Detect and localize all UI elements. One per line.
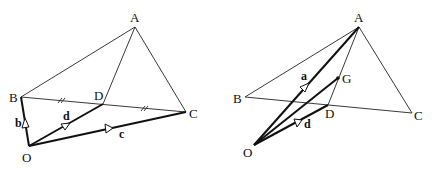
segment-bc: [21, 97, 186, 112]
label-b: B: [9, 90, 18, 105]
segment-ac: [359, 27, 412, 113]
arrow-b-icon: [22, 118, 29, 128]
segment-ad: [328, 27, 359, 105]
arrow-c-icon: [105, 124, 113, 133]
label-g: G: [342, 71, 351, 86]
label-o: O: [243, 145, 252, 160]
vector-label-c: c: [119, 127, 125, 141]
vector-label-a: a: [301, 69, 307, 83]
label-a: A: [130, 10, 140, 25]
left-figure: A B D C O b d c: [9, 10, 198, 165]
label-d: D: [325, 106, 334, 121]
arrow-d-icon: [294, 119, 302, 127]
right-figure: A B G D C O a d: [233, 10, 423, 160]
label-b: B: [233, 91, 242, 106]
label-o: O: [22, 150, 31, 165]
label-c: C: [189, 106, 198, 121]
label-c: C: [414, 108, 423, 123]
segment-ac: [135, 27, 186, 112]
label-d: D: [94, 88, 103, 103]
arrow-d-icon: [61, 123, 70, 130]
vector-label-d: d: [304, 117, 311, 131]
vector-d: [254, 105, 328, 145]
segment-ad: [103, 27, 135, 104]
segment-ab: [21, 27, 135, 97]
vector-label-d: d: [63, 109, 70, 123]
diagram-canvas: A B D C O b d c A B G D C O a d: [0, 0, 437, 171]
label-a: A: [354, 10, 364, 25]
point-g-dot: [336, 76, 340, 80]
vector-label-b: b: [15, 116, 22, 130]
